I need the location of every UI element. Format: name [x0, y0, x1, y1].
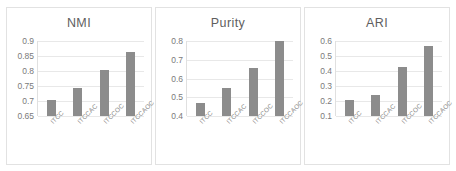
chart-panel-ari: ARI 0.10.20.30.40.50.6 ITCCITCCACITCCOCI…	[304, 7, 450, 165]
bar	[275, 41, 284, 116]
y-axis-labels-ari: 0.10.20.30.40.50.6	[305, 41, 334, 116]
chart-panel-nmi: NMI 0.650.70.750.80.850.9 ITCCITCCACITCC…	[6, 7, 152, 165]
bar	[424, 46, 433, 116]
bar	[73, 88, 82, 117]
y-tick-label: 0.5	[171, 93, 183, 102]
bar-slot	[38, 41, 65, 116]
y-tick-label: 0.3	[320, 82, 332, 91]
bar	[371, 95, 380, 116]
bar-chart-figure: NMI 0.650.70.750.80.850.9 ITCCITCCACITCC…	[0, 0, 456, 171]
x-label-slot: ITCC	[38, 116, 65, 164]
chart-panel-purity: Purity 0.40.50.60.70.8 ITCCITCCACITCCOCI…	[155, 7, 301, 165]
y-tick-label: 0.8	[22, 67, 34, 76]
x-axis-labels-nmi: ITCCITCCACITCCOCITCCAOC	[38, 116, 144, 164]
bar-slot	[65, 41, 92, 116]
y-tick-label: 0.7	[171, 56, 183, 65]
bar-slot	[214, 41, 241, 116]
bar-slot	[187, 41, 214, 116]
panel-title-purity: Purity	[156, 16, 300, 30]
x-label-slot: ITCCAC	[363, 116, 390, 164]
y-tick-label: 0.6	[171, 74, 183, 83]
y-tick-label: 0.7	[22, 97, 34, 106]
x-label-slot: ITCCAC	[65, 116, 92, 164]
y-tick-label: 0.85	[17, 52, 34, 61]
x-label-slot: ITCC	[336, 116, 363, 164]
y-axis-labels-purity: 0.40.50.60.70.8	[156, 41, 185, 116]
x-label-slot: ITCCOC	[240, 116, 267, 164]
bar	[249, 68, 258, 116]
x-label-slot: ITCC	[187, 116, 214, 164]
panel-title-nmi: NMI	[7, 16, 151, 30]
x-label-slot: ITCCOC	[389, 116, 416, 164]
y-tick-label: 0.9	[22, 37, 34, 46]
x-axis-labels-ari: ITCCITCCACITCCOCITCCAOC	[336, 116, 442, 164]
x-label-slot: ITCCAOC	[267, 116, 294, 164]
y-axis-labels-nmi: 0.650.70.750.80.850.9	[7, 41, 36, 116]
y-tick-label: 0.8	[171, 37, 183, 46]
x-label-slot: ITCCAC	[214, 116, 241, 164]
y-tick-label: 0.5	[320, 52, 332, 61]
bar	[222, 88, 231, 116]
y-tick-label: 0.1	[320, 112, 332, 121]
y-tick-label: 0.2	[320, 97, 332, 106]
x-axis-labels-purity: ITCCITCCACITCCOCITCCAOC	[187, 116, 293, 164]
y-tick-label: 0.65	[17, 112, 34, 121]
y-tick-label: 0.4	[171, 112, 183, 121]
y-tick-label: 0.6	[320, 37, 332, 46]
bar	[398, 67, 407, 117]
x-label-slot: ITCCAOC	[416, 116, 443, 164]
y-tick-label: 0.4	[320, 67, 332, 76]
bar	[100, 70, 109, 117]
x-label-slot: ITCCAOC	[118, 116, 145, 164]
bar-slot	[336, 41, 363, 116]
x-label-slot: ITCCOC	[91, 116, 118, 164]
bar-slot	[363, 41, 390, 116]
bar	[126, 52, 135, 116]
y-tick-label: 0.75	[17, 82, 34, 91]
panel-title-ari: ARI	[305, 16, 449, 30]
